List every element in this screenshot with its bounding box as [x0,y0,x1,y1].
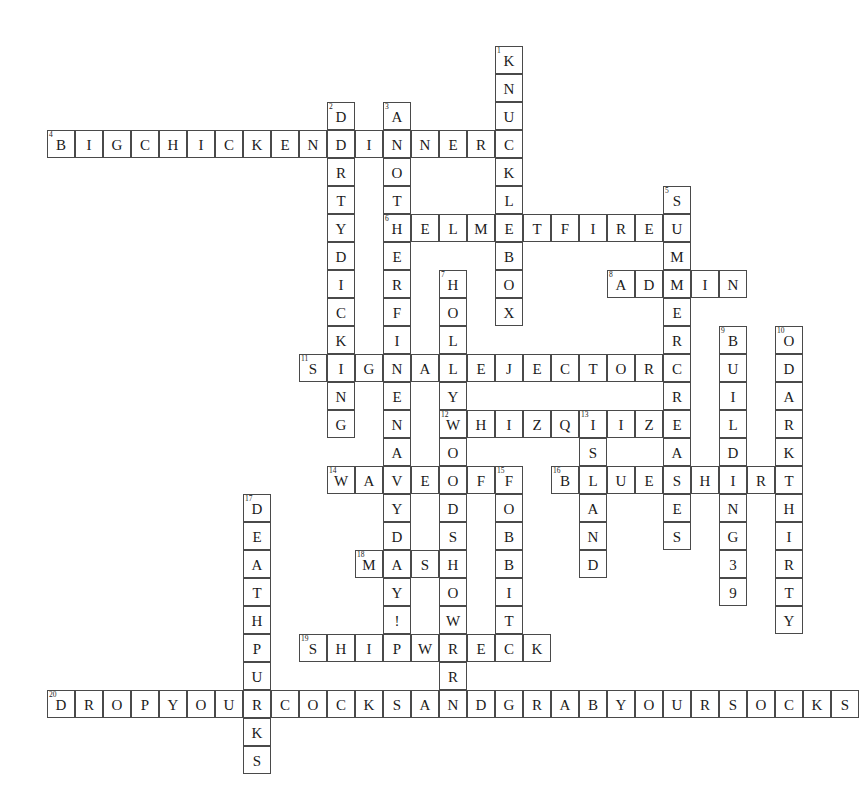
crossword-cell[interactable]: E [467,634,495,662]
crossword-cell[interactable]: N [719,270,747,298]
crossword-cell[interactable]: I [495,578,523,606]
crossword-cell[interactable]: I [75,130,103,158]
crossword-cell[interactable]: G [327,410,355,438]
crossword-cell[interactable]: I [355,130,383,158]
crossword-cell[interactable]: O [495,494,523,522]
crossword-cell[interactable]: T [579,354,607,382]
crossword-cell[interactable]: S [383,690,411,718]
crossword-cell[interactable]: K [775,438,803,466]
crossword-cell[interactable]: O [439,466,467,494]
crossword-cell[interactable]: O [495,270,523,298]
crossword-cell[interactable]: L [495,186,523,214]
crossword-cell[interactable]: A [411,690,439,718]
crossword-cell[interactable]: O [103,690,131,718]
crossword-cell[interactable]: C [271,690,299,718]
crossword-cell[interactable]: E [411,466,439,494]
crossword-cell[interactable]: D [579,550,607,578]
crossword-cell[interactable]: 2D [327,102,355,130]
crossword-cell[interactable]: 12W [439,410,467,438]
crossword-cell[interactable]: T [775,578,803,606]
crossword-cell[interactable]: N [327,382,355,410]
crossword-cell[interactable]: K [243,718,271,746]
crossword-cell[interactable]: O [439,298,467,326]
crossword-cell[interactable]: R [635,354,663,382]
crossword-cell[interactable]: O [439,438,467,466]
crossword-cell[interactable]: M [663,270,691,298]
crossword-cell[interactable]: K [355,690,383,718]
crossword-cell[interactable]: C [495,634,523,662]
crossword-cell[interactable]: H [691,466,719,494]
crossword-cell[interactable]: I [327,354,355,382]
crossword-cell[interactable]: 11S [299,354,327,382]
crossword-cell[interactable]: Y [383,578,411,606]
crossword-cell[interactable]: E [663,298,691,326]
crossword-cell[interactable]: E [635,214,663,242]
crossword-cell[interactable]: E [467,354,495,382]
crossword-cell[interactable]: U [607,466,635,494]
crossword-cell[interactable]: V [383,466,411,494]
crossword-cell[interactable]: S [663,522,691,550]
crossword-cell[interactable]: A [579,494,607,522]
crossword-cell[interactable]: G [495,690,523,718]
crossword-cell[interactable]: 15F [495,466,523,494]
crossword-cell[interactable]: U [243,662,271,690]
crossword-cell[interactable]: 9B [719,326,747,354]
crossword-cell[interactable]: 7H [439,270,467,298]
crossword-cell[interactable]: K [523,634,551,662]
crossword-cell[interactable]: D [467,690,495,718]
crossword-cell[interactable]: A [383,550,411,578]
crossword-cell[interactable]: C [775,690,803,718]
crossword-cell[interactable]: C [495,130,523,158]
crossword-cell[interactable]: I [719,382,747,410]
crossword-cell[interactable]: C [327,298,355,326]
crossword-cell[interactable]: T [327,186,355,214]
crossword-cell[interactable]: C [663,354,691,382]
crossword-cell[interactable]: I [719,466,747,494]
crossword-cell[interactable]: E [495,214,523,242]
crossword-cell[interactable]: R [327,158,355,186]
crossword-cell[interactable]: H [467,410,495,438]
crossword-cell[interactable]: E [411,214,439,242]
crossword-cell[interactable]: M [663,242,691,270]
crossword-cell[interactable]: E [523,354,551,382]
crossword-cell[interactable]: F [551,214,579,242]
crossword-cell[interactable]: N [299,130,327,158]
crossword-cell[interactable]: 3 [719,550,747,578]
crossword-cell[interactable]: U [215,690,243,718]
crossword-cell[interactable]: 10O [775,326,803,354]
crossword-cell[interactable]: N [439,690,467,718]
crossword-cell[interactable]: K [243,130,271,158]
crossword-cell[interactable]: Y [607,690,635,718]
crossword-cell[interactable]: E [383,382,411,410]
crossword-cell[interactable]: R [439,634,467,662]
crossword-cell[interactable]: S [411,550,439,578]
crossword-cell[interactable]: K [803,690,831,718]
crossword-cell[interactable]: U [663,214,691,242]
crossword-cell[interactable]: I [691,270,719,298]
crossword-cell[interactable]: 8A [607,270,635,298]
crossword-cell[interactable]: T [495,606,523,634]
crossword-cell[interactable]: G [355,354,383,382]
crossword-cell[interactable]: D [383,522,411,550]
crossword-cell[interactable]: D [327,130,355,158]
crossword-cell[interactable]: C [131,130,159,158]
crossword-cell[interactable]: R [439,662,467,690]
crossword-cell[interactable]: S [719,690,747,718]
crossword-cell[interactable]: E [663,494,691,522]
crossword-cell[interactable]: A [383,438,411,466]
crossword-cell[interactable]: R [243,690,271,718]
crossword-cell[interactable]: Y [775,606,803,634]
crossword-cell[interactable]: B [579,690,607,718]
crossword-cell[interactable]: D [439,494,467,522]
crossword-cell[interactable]: N [411,130,439,158]
crossword-cell[interactable]: P [383,634,411,662]
crossword-cell[interactable]: Y [383,494,411,522]
crossword-cell[interactable]: E [271,130,299,158]
crossword-cell[interactable]: U [495,102,523,130]
crossword-cell[interactable]: O [747,690,775,718]
crossword-cell[interactable]: I [187,130,215,158]
crossword-cell[interactable]: B [495,242,523,270]
crossword-cell[interactable]: 14W [327,466,355,494]
crossword-cell[interactable]: K [327,326,355,354]
crossword-cell[interactable]: S [579,438,607,466]
